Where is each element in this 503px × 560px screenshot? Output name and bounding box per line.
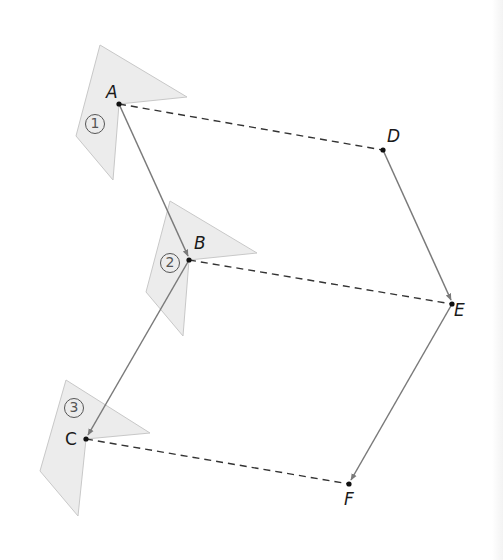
dashed-segment-cf xyxy=(86,439,349,484)
shape-3 xyxy=(40,380,150,516)
point-d xyxy=(380,147,385,152)
diagram-canvas xyxy=(0,0,503,560)
arrow-b-to-c xyxy=(88,260,189,435)
label-d: D xyxy=(387,128,400,145)
point-f xyxy=(346,481,351,486)
dashed-segment-be xyxy=(189,260,452,304)
point-a xyxy=(116,101,121,106)
arrow-d-to-e xyxy=(383,150,451,300)
point-c xyxy=(83,436,88,441)
arrow-e-to-f xyxy=(351,304,452,480)
arrow-a-to-b xyxy=(119,104,188,256)
label-c: C xyxy=(65,431,77,448)
translation-diagram: A B C D E F 1 2 3 xyxy=(0,0,503,560)
label-a: A xyxy=(106,84,118,101)
label-b: B xyxy=(194,235,206,252)
label-f: F xyxy=(344,491,354,508)
label-e: E xyxy=(454,302,465,319)
shape-marker-2: 2 xyxy=(160,253,180,273)
point-b xyxy=(186,257,191,262)
shape-marker-1: 1 xyxy=(85,114,105,134)
shape-marker-3: 3 xyxy=(64,398,84,418)
dashed-segment-ad xyxy=(119,104,383,150)
page-edge xyxy=(492,0,503,560)
